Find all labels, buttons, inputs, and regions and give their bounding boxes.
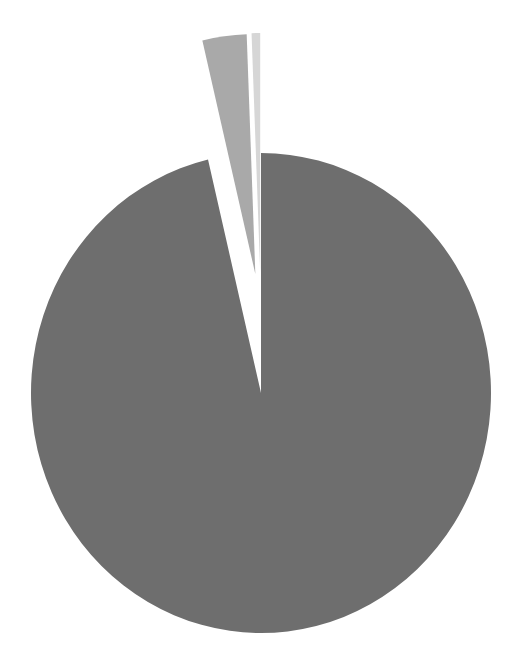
pie-chart (0, 0, 519, 662)
pie-slice-1 (31, 153, 491, 633)
